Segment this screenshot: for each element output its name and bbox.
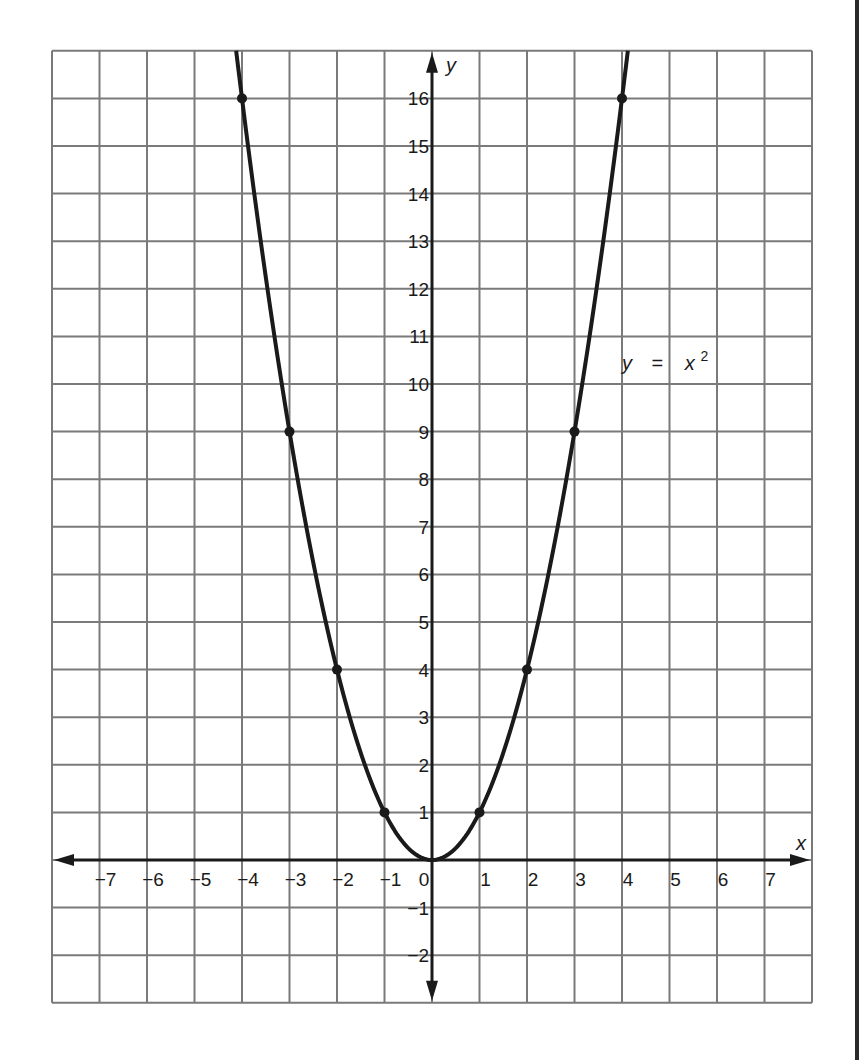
axis-labels: x y [444,54,807,854]
data-point [522,665,532,675]
y-tick-label: 12 [408,279,429,300]
y-axis-label: y [444,54,457,76]
data-point [237,93,247,103]
y-tick-label: 15 [408,136,429,157]
x-tick-label: 5 [670,869,681,890]
x-tick-label: 1 [480,869,491,890]
y-tick-label: 1 [418,802,429,823]
y-tick-label: 7 [418,517,429,538]
data-point [475,807,485,817]
y-tick-label: 8 [418,469,429,490]
x-tick-label: −2 [332,869,354,890]
x-tick-label: 2 [528,869,539,890]
y-tick-label: 11 [409,326,429,347]
equation-equals: = [652,352,664,374]
y-tick-label: 5 [418,612,429,633]
x-axis-label: x [795,832,807,854]
y-tick-label: −1 [407,898,429,919]
svg-text:y = x 2: y = x 2 [620,348,708,374]
x-tick-label: −4 [237,869,259,890]
x-tick-label: 3 [575,869,586,890]
x-tick-label: 7 [765,869,776,890]
x-tick-label: 0 [419,869,430,890]
equation-x: x [684,352,696,374]
y-tick-label: 10 [408,374,429,395]
y-tick-label: 13 [408,231,429,252]
equation-label: y = x 2 [620,348,708,374]
x-tick-label: 4 [623,869,634,890]
page-edge-bar [855,0,859,1060]
equation-y: y [620,352,633,374]
y-tick-label: −2 [407,945,429,966]
y-tick-label: 4 [418,660,429,681]
y-tick-label: 14 [408,184,430,205]
data-point [617,93,627,103]
x-tick-label: 6 [718,869,729,890]
parabola-chart: −7−6−5−4−3−2−101234567−2−112345678910111… [0,0,859,1060]
x-tick-label: −3 [285,869,307,890]
x-tick-label: −6 [142,869,164,890]
y-tick-label: 16 [408,88,429,109]
data-point [380,807,390,817]
data-point [332,665,342,675]
data-point [570,427,580,437]
x-tick-label: −1 [380,869,402,890]
y-tick-label: 3 [418,707,429,728]
y-tick-label: 2 [418,755,429,776]
x-tick-label: −5 [190,869,212,890]
equation-exponent: 2 [700,348,708,364]
y-tick-label: 6 [418,564,429,585]
y-tick-label: 9 [418,422,429,443]
x-tick-label: −7 [95,869,117,890]
data-point [285,427,295,437]
